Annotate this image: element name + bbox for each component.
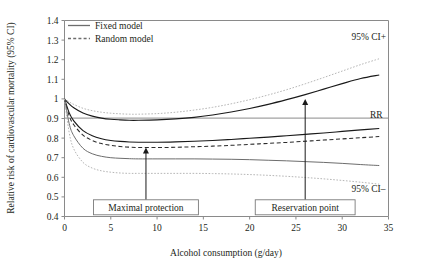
legend-label-random-model: Random model [95, 34, 154, 44]
y-tick-label: 0.4 [47, 212, 59, 222]
x-axis-title: Alcohol consumption (g/day) [170, 248, 282, 259]
y-tick-label: 0.9 [47, 114, 59, 124]
x-tick-label: 0 [62, 223, 67, 233]
series-label-1: RR [370, 110, 383, 120]
y-tick-label: 0.8 [47, 134, 59, 144]
legend-label-fixed-model: Fixed model [95, 21, 143, 31]
y-tick-label: 0.6 [47, 173, 59, 183]
y-tick-label: 1.4 [47, 16, 59, 26]
x-tick-label: 20 [245, 223, 255, 233]
series-label-0: 95% CI+ [351, 32, 386, 42]
y-tick-label: 1 [54, 94, 59, 104]
y-axis-title: Relative risk of cardiovascular mortalit… [6, 22, 17, 214]
x-tick-label: 35 [384, 223, 394, 233]
y-tick-label: 0.5 [47, 192, 59, 202]
y-tick-label: 0.7 [47, 153, 59, 163]
x-tick-label: 10 [152, 223, 162, 233]
x-tick-label: 30 [337, 223, 347, 233]
x-tick-label: 15 [199, 223, 209, 233]
x-tick-label: 5 [108, 223, 113, 233]
x-tick-label: 25 [291, 223, 301, 233]
series-label-2: 95% CI– [351, 184, 385, 194]
annotation-label-1: Reservation point [272, 203, 340, 213]
chart-figure: 0.40.50.60.70.80.911.11.21.31.4 05101520… [0, 0, 432, 268]
chart-svg: 0.40.50.60.70.80.911.11.21.31.4 05101520… [0, 0, 432, 268]
y-tick-label: 1.3 [47, 36, 59, 46]
y-tick-label: 1.2 [47, 55, 59, 65]
y-tick-label: 1.1 [47, 75, 59, 85]
annotation-label-0: Maximal protection [108, 203, 183, 213]
